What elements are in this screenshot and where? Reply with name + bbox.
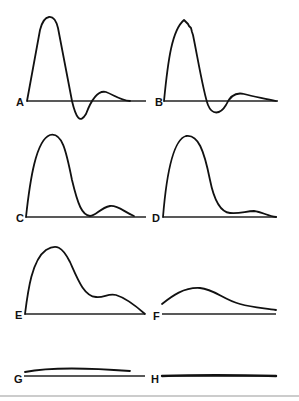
label-c: C: [16, 212, 24, 224]
panel-a: A: [16, 17, 146, 119]
panel-e: E: [15, 247, 145, 321]
label-g: G: [14, 373, 23, 385]
waveform-e: [25, 247, 145, 314]
label-d: D: [152, 212, 160, 224]
label-e: E: [15, 309, 22, 321]
panel-b: B: [155, 20, 278, 113]
waveform-a: [27, 17, 130, 119]
label-h: H: [151, 373, 159, 385]
panel-f: F: [153, 288, 276, 322]
waveform-h: [162, 375, 276, 376]
waveform-figure: A B C D E F G H: [0, 0, 299, 401]
panel-h: H: [151, 373, 276, 385]
waveform-g: [25, 369, 130, 373]
waveform-c: [26, 135, 134, 217]
panel-g: G: [14, 369, 145, 386]
label-b: B: [155, 96, 163, 108]
label-f: F: [153, 310, 160, 322]
panel-d: D: [152, 136, 277, 224]
panel-c: C: [16, 135, 146, 224]
waveform-d: [163, 136, 276, 217]
waveform-f: [162, 288, 276, 310]
label-a: A: [16, 96, 24, 108]
waveform-b: [164, 20, 276, 113]
